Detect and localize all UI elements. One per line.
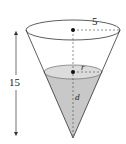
water-radius-label: r (81, 62, 85, 72)
top-center-dot (71, 28, 75, 32)
water-depth-label: d (75, 92, 80, 102)
cone-diagram: 5 15 r d (0, 0, 126, 144)
water-center-dot (71, 70, 75, 74)
top-radius-label: 5 (92, 15, 98, 27)
height-label: 15 (9, 76, 21, 88)
water-volume (44, 72, 102, 138)
